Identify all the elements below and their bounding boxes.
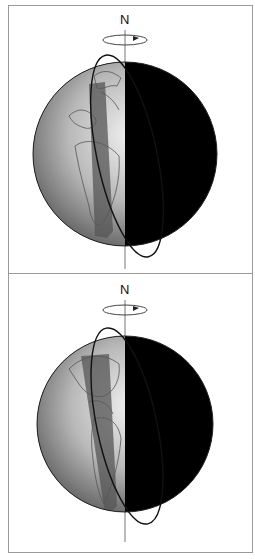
north-label: N [120, 282, 129, 297]
north-label: N [120, 12, 129, 27]
top-globe-panel: N [8, 5, 253, 274]
top-globe-diagram [9, 6, 252, 274]
bottom-globe-diagram [9, 274, 252, 552]
bottom-globe-panel: N [8, 273, 253, 553]
